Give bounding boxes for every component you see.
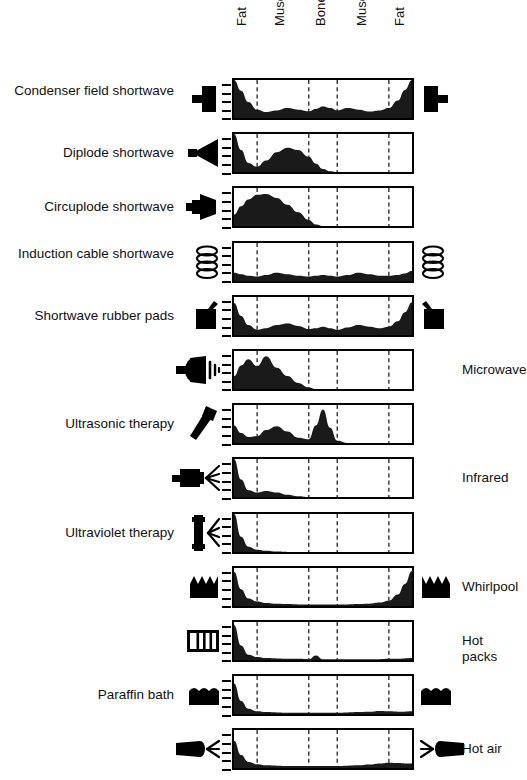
modality-label-8: Ultraviolet therapy [6, 525, 174, 541]
hot-air-blower-icon [420, 737, 466, 761]
coil-icon [420, 245, 446, 279]
hot-pack-icon [186, 629, 220, 653]
absorption-profile-3 [232, 241, 414, 283]
modality-row: Condenser field shortwave [0, 78, 521, 132]
coil-icon [194, 245, 220, 279]
tissue-label-fat-0: Fat [234, 7, 250, 26]
modality-label-5: Microwave [462, 362, 517, 378]
modality-label-1: Diplode shortwave [6, 145, 174, 161]
axis-ticks-7 [222, 459, 232, 501]
absorption-profile-9 [232, 566, 414, 608]
absorption-profile-8 [232, 512, 414, 554]
modality-row: Induction cable shortwave [0, 241, 521, 295]
uv-lamp-icon [190, 513, 220, 553]
modality-label-4: Shortwave rubber pads [6, 308, 174, 324]
axis-ticks-6 [222, 405, 232, 447]
modality-row: Hot air [0, 728, 521, 780]
modality-row: Microwave [0, 349, 521, 403]
modality-label-9: Whirlpool [462, 579, 517, 595]
tissue-label-fat-4: Fat [392, 7, 408, 26]
absorption-profile-1 [232, 132, 414, 174]
ultrasound-head-icon [186, 404, 220, 444]
axis-ticks-1 [222, 134, 232, 176]
axis-ticks-9 [222, 568, 232, 610]
rubber-pad-icon [194, 301, 220, 331]
infrared-lamp-icon [172, 461, 220, 495]
axis-ticks-12 [222, 730, 232, 772]
axis-ticks-3 [222, 243, 232, 285]
modality-label-12: Hot air [462, 741, 517, 757]
absorption-profile-11 [232, 674, 414, 716]
tissue-label-muscle-1: Muscle [272, 0, 288, 26]
hot-air-blower-icon [174, 737, 220, 761]
modality-label-2: Circuplode shortwave [6, 199, 174, 215]
modality-row: Shortwave rubber pads [0, 295, 521, 349]
modality-label-3: Induction cable shortwave [6, 246, 174, 262]
microwave-emitter-icon [176, 354, 220, 386]
tissue-label-bone-2: Bone [313, 0, 329, 26]
absorption-profile-0 [232, 78, 414, 120]
tissue-label-muscle-3: Muscle [354, 0, 370, 26]
diplode-icon [188, 137, 220, 169]
modality-label-0: Condenser field shortwave [6, 83, 174, 99]
modality-row: Infrared [0, 457, 521, 511]
condenser-plate-icon [420, 82, 450, 116]
modality-row: Circuplode shortwave [0, 186, 521, 240]
circuplode-icon [186, 192, 220, 222]
paraffin-bath-icon [420, 684, 452, 706]
absorption-profile-6 [232, 403, 414, 445]
axis-ticks-4 [222, 297, 232, 339]
axis-ticks-11 [222, 676, 232, 718]
absorption-profile-5 [232, 349, 414, 391]
modality-row: Ultraviolet therapy [0, 512, 521, 566]
modality-row: Hot packs [0, 620, 521, 674]
modality-label-6: Ultrasonic therapy [6, 416, 174, 432]
absorption-profile-2 [232, 186, 414, 228]
rubber-pad-icon [420, 301, 446, 331]
condenser-plate-icon [190, 82, 220, 116]
modality-row: Ultrasonic therapy [0, 403, 521, 457]
axis-ticks-10 [222, 622, 232, 664]
absorption-profile-4 [232, 295, 414, 337]
modality-label-11: Paraffin bath [6, 687, 174, 703]
modality-row: Diplode shortwave [0, 132, 521, 186]
modality-row: Paraffin bath [0, 674, 521, 728]
axis-ticks-0 [222, 80, 232, 122]
axis-ticks-5 [222, 351, 232, 393]
whirlpool-icon [420, 574, 452, 600]
whirlpool-icon [188, 574, 220, 600]
absorption-profile-12 [232, 728, 414, 770]
modality-label-7: Infrared [462, 470, 517, 486]
modality-row: Whirlpool [0, 566, 521, 620]
modality-label-10: Hot packs [462, 633, 517, 665]
axis-ticks-2 [222, 188, 232, 230]
axis-ticks-8 [222, 514, 232, 556]
absorption-profile-10 [232, 620, 414, 662]
absorption-profile-7 [232, 457, 414, 499]
paraffin-bath-icon [188, 684, 220, 706]
